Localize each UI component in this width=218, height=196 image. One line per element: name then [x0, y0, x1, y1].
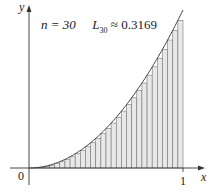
- riemann-rect: [65, 159, 70, 168]
- riemann-rect: [80, 150, 85, 168]
- riemann-rect: [85, 147, 90, 168]
- riemann-rect: [55, 164, 60, 168]
- y-axis-arrow-icon: [27, 5, 32, 12]
- riemann-rect: [101, 134, 106, 168]
- riemann-rect: [127, 105, 132, 168]
- riemann-rect: [60, 162, 65, 168]
- riemann-rect: [91, 143, 96, 168]
- riemann-rect: [168, 40, 173, 168]
- riemann-rect: [116, 117, 121, 168]
- riemann-rect: [70, 157, 75, 168]
- riemann-rect: [75, 154, 80, 168]
- y-axis-label: y: [19, 0, 24, 15]
- riemann-rect: [162, 49, 167, 168]
- approx-value: ≈ 0.3169: [111, 17, 157, 32]
- x-tick-label-1: 1: [180, 174, 186, 189]
- L-letter: L: [92, 17, 99, 32]
- origin-label: 0: [18, 169, 24, 184]
- riemann-annotation: n = 30 L30 ≈ 0.3169: [41, 17, 157, 35]
- riemann-rect: [178, 20, 183, 168]
- x-axis-label: x: [201, 170, 206, 185]
- riemann-rect: [152, 67, 157, 168]
- n-label: n = 30: [41, 17, 76, 32]
- riemann-rect: [111, 123, 116, 168]
- riemann-rect: [147, 75, 152, 168]
- riemann-rect: [137, 91, 142, 168]
- riemann-rect: [106, 129, 111, 169]
- L-subscript: 30: [100, 26, 108, 35]
- riemann-rect: [96, 138, 101, 168]
- riemann-rect: [121, 111, 126, 168]
- riemann-rect: [132, 98, 137, 168]
- riemann-rect: [157, 58, 162, 168]
- riemann-rectangles: [34, 20, 183, 168]
- riemann-rect: [142, 83, 147, 168]
- riemann-rect: [173, 30, 178, 168]
